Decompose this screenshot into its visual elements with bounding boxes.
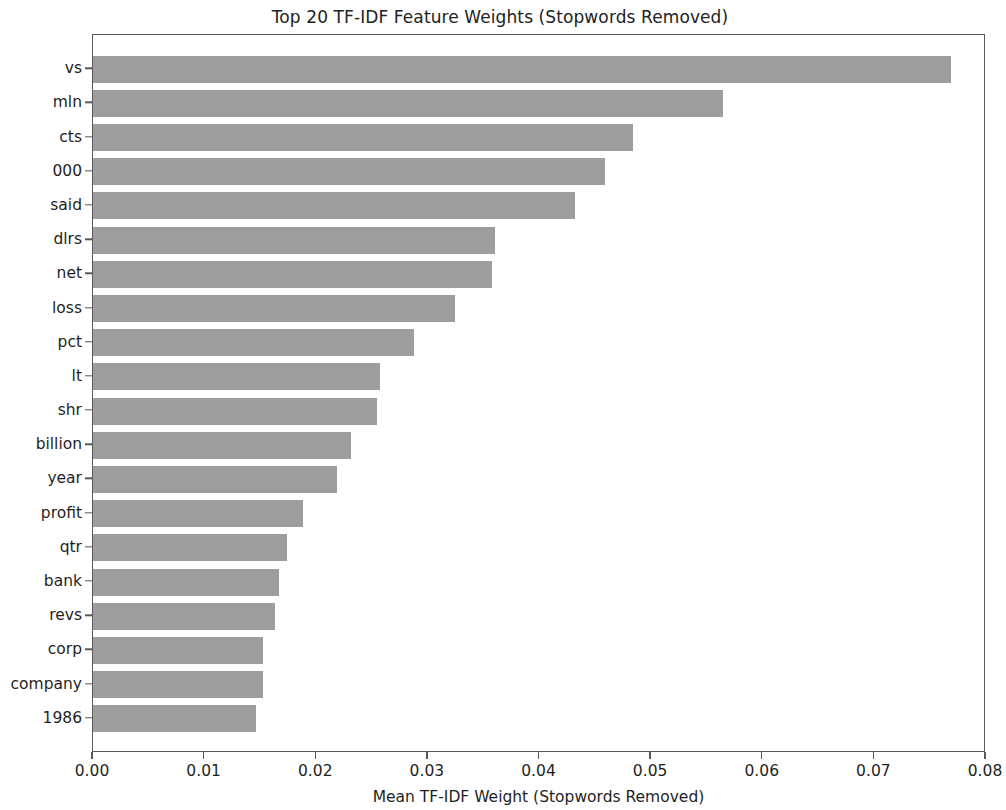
- bar: [93, 534, 287, 561]
- bar-row: [93, 124, 985, 151]
- bar: [93, 192, 575, 219]
- x-axis-tick-mark: [315, 752, 316, 759]
- y-axis-tick-label: mln: [0, 93, 82, 111]
- x-axis-tick-mark: [203, 752, 204, 759]
- y-axis-tick-label: net: [0, 264, 82, 282]
- y-axis-tick-label: billion: [0, 435, 82, 453]
- bar: [93, 466, 337, 493]
- x-axis-tick-mark: [984, 752, 985, 759]
- x-axis-tick-label: 0.06: [722, 762, 802, 780]
- bar: [93, 637, 263, 664]
- y-axis-tick-mark: [85, 615, 92, 616]
- y-axis-tick-label: said: [0, 196, 82, 214]
- y-axis-tick-label: 000: [0, 162, 82, 180]
- y-axis-tick-label: bank: [0, 572, 82, 590]
- x-axis-tick-label: 0.02: [275, 762, 355, 780]
- x-axis-tick-mark: [538, 752, 539, 759]
- y-axis-tick-label: company: [0, 675, 82, 693]
- bar: [93, 705, 256, 732]
- y-axis-tick-mark: [85, 136, 92, 137]
- y-axis-tick-mark: [85, 238, 92, 239]
- y-axis-tick-mark: [85, 307, 92, 308]
- bar: [93, 569, 279, 596]
- bar-row: [93, 671, 985, 698]
- bar-row: [93, 466, 985, 493]
- y-axis-tick-mark: [85, 375, 92, 376]
- bar: [93, 432, 351, 459]
- bar: [93, 227, 495, 254]
- bar-row: [93, 705, 985, 732]
- bar: [93, 261, 492, 288]
- x-axis-tick-label: 0.01: [164, 762, 244, 780]
- chart-title: Top 20 TF-IDF Feature Weights (Stopwords…: [0, 7, 1000, 27]
- bar-row: [93, 295, 985, 322]
- y-axis-tick-label: dlrs: [0, 230, 82, 248]
- x-axis-tick-label: 0.04: [499, 762, 579, 780]
- y-axis-tick-mark: [85, 546, 92, 547]
- y-axis-tick-mark: [85, 444, 92, 445]
- bar: [93, 124, 633, 151]
- bar-row: [93, 227, 985, 254]
- bar-row: [93, 90, 985, 117]
- y-axis-tick-label: cts: [0, 128, 82, 146]
- y-axis-tick-label: qtr: [0, 538, 82, 556]
- y-axis-tick-label: year: [0, 469, 82, 487]
- bar: [93, 363, 380, 390]
- y-axis-tick-mark: [85, 102, 92, 103]
- plot-area: [92, 34, 985, 752]
- y-axis-tick-label: revs: [0, 606, 82, 624]
- bar: [93, 500, 303, 527]
- x-axis-label: Mean TF-IDF Weight (Stopwords Removed): [92, 788, 985, 806]
- bar: [93, 56, 951, 83]
- bar-row: [93, 603, 985, 630]
- bar: [93, 295, 455, 322]
- bar: [93, 603, 275, 630]
- y-axis-tick-label: loss: [0, 299, 82, 317]
- bar-row: [93, 637, 985, 664]
- x-axis-tick-mark: [426, 752, 427, 759]
- bar: [93, 398, 377, 425]
- bar: [93, 671, 263, 698]
- y-axis-tick-mark: [85, 683, 92, 684]
- bar-row: [93, 534, 985, 561]
- y-axis-tick-label: lt: [0, 367, 82, 385]
- bar: [93, 329, 414, 356]
- y-axis-tick-mark: [85, 273, 92, 274]
- x-axis-tick-mark: [873, 752, 874, 759]
- x-axis-tick-mark: [761, 752, 762, 759]
- bar-row: [93, 500, 985, 527]
- bar-row: [93, 56, 985, 83]
- x-axis-tick-label: 0.05: [610, 762, 690, 780]
- x-axis-tick-label: 0.03: [387, 762, 467, 780]
- y-axis-tick-label: shr: [0, 401, 82, 419]
- y-axis-tick-labels: vsmlncts000saiddlrsnetlosspctltshrbillio…: [0, 0, 82, 810]
- y-axis-tick-label: profit: [0, 504, 82, 522]
- y-axis-tick-label: vs: [0, 59, 82, 77]
- bar-row: [93, 329, 985, 356]
- y-axis-tick-mark: [85, 649, 92, 650]
- bar-row: [93, 261, 985, 288]
- x-axis-tick-label: 0.07: [833, 762, 913, 780]
- x-axis-tick-mark: [649, 752, 650, 759]
- x-axis-tick-label: 0.08: [945, 762, 1006, 780]
- bar: [93, 90, 723, 117]
- y-axis-tick-mark: [85, 717, 92, 718]
- y-axis-tick-mark: [85, 512, 92, 513]
- bar-row: [93, 363, 985, 390]
- x-axis-tick-mark: [91, 752, 92, 759]
- y-axis-tick-label: 1986: [0, 709, 82, 727]
- bar-row: [93, 398, 985, 425]
- bar-row: [93, 569, 985, 596]
- y-axis-tick-mark: [85, 67, 92, 68]
- bar-row: [93, 432, 985, 459]
- y-axis-tick-mark: [85, 170, 92, 171]
- y-axis-tick-mark: [85, 341, 92, 342]
- y-axis-tick-mark: [85, 580, 92, 581]
- bar-row: [93, 158, 985, 185]
- y-axis-tick-mark: [85, 204, 92, 205]
- y-axis-tick-label: corp: [0, 640, 82, 658]
- bar-row: [93, 192, 985, 219]
- y-axis-tick-mark: [85, 478, 92, 479]
- y-axis-tick-mark: [85, 409, 92, 410]
